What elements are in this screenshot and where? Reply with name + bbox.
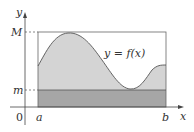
curve-label: y = f(x) bbox=[103, 47, 145, 60]
b-label: b bbox=[162, 111, 169, 124]
y-axis-arrow-icon bbox=[23, 12, 27, 18]
M-label: M bbox=[10, 26, 23, 39]
x-axis-label: x bbox=[180, 110, 187, 123]
origin-label: 0 bbox=[16, 111, 23, 124]
bounds-diagram: y x M m 0 a b y = f(x) bbox=[0, 0, 194, 132]
a-label: a bbox=[36, 111, 43, 124]
x-axis-arrow-icon bbox=[178, 105, 184, 109]
m-label: m bbox=[13, 84, 23, 97]
y-axis-label: y bbox=[15, 6, 23, 19]
lower-bound-rectangle bbox=[38, 90, 166, 107]
